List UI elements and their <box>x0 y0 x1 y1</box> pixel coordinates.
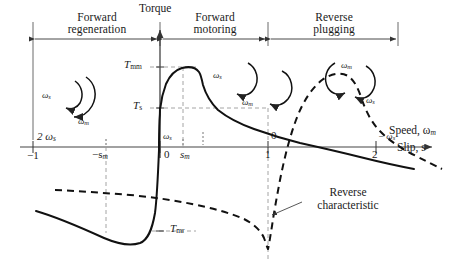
annotation-line1: Reverse <box>300 186 396 199</box>
region-title-line2: regeneration <box>49 23 145 35</box>
slip-tick-minus-sm: −sm <box>92 149 108 161</box>
omega-s-label-3: ωs <box>366 96 375 106</box>
omega-s-label-1-sub: s <box>48 93 51 100</box>
region-title-forward-regeneration: Forward regeneration <box>49 11 145 35</box>
label-tmr-sub: mr <box>176 226 185 235</box>
slip-tick-1: 1 <box>265 149 271 161</box>
region-title-line2: plugging <box>288 23 380 35</box>
slip-tick-sm: sm <box>180 149 190 161</box>
label-tmm: Tmm <box>124 59 142 71</box>
omega-s-label-2-sub: s <box>219 73 222 80</box>
torque-axis-label: Torque <box>139 2 171 14</box>
omega-s-label-1: ωs <box>42 91 51 101</box>
speed-tick-2ws-text: 2 ω <box>37 130 53 142</box>
annotation-reverse-characteristic: Reverse characteristic <box>300 186 396 212</box>
slip-axis-label: Slip, s <box>397 141 426 153</box>
omega-m-label-1: ωm <box>78 117 89 127</box>
label-ts: Ts <box>133 100 142 112</box>
omega-m-label-2: ωm <box>242 98 253 108</box>
region-title-reverse-plugging: Reverse plugging <box>288 11 380 35</box>
region-title-forward-motoring: Forward motoring <box>170 11 260 35</box>
omega-m-arc-2 <box>270 71 292 105</box>
omega-s-label-3-sub: s <box>372 98 375 105</box>
region-title-line1: Reverse <box>288 11 380 23</box>
omega-s-arc-3 <box>355 66 375 98</box>
speed-axis-label-sub: m <box>430 128 436 137</box>
label-tmm-sub: mm <box>130 62 142 71</box>
speed-tick-ws: ωs <box>163 132 172 142</box>
speed-tick-2ws: 2 ωs <box>37 131 56 143</box>
slip-tick-0: 0 <box>164 149 170 161</box>
speed-axis-label: Speed, ωm <box>389 124 436 137</box>
label-ts-sub: s <box>139 103 142 112</box>
slip-tick-minus-sm-text: −s <box>92 148 102 160</box>
omega-s-arc-2 <box>237 63 257 95</box>
slip-tick-minus-sm-sub: m <box>102 152 108 161</box>
region-title-line1: Forward <box>49 11 145 23</box>
region-title-line2: motoring <box>170 23 260 35</box>
slip-tick-sm-sub: m <box>184 152 190 161</box>
axis-ticks <box>33 132 376 153</box>
omega-s-arc-1 <box>66 81 82 109</box>
speed-tick-ws-sub: s <box>169 134 172 141</box>
annotation-line2: characteristic <box>300 199 396 212</box>
speed-tick-0: 0 <box>271 130 277 142</box>
slip-tick-2: 2 <box>372 149 378 161</box>
omega-m-label-2-sub: m <box>248 100 253 107</box>
region-title-line1: Forward <box>170 11 260 23</box>
speed-tick-2ws-sub: s <box>53 134 56 143</box>
speed-axis-label-text: Speed, ω <box>389 124 430 136</box>
rotation-arrows-forward-regeneration <box>66 77 95 117</box>
omega-m-label-3-sub: m <box>347 63 352 70</box>
omega-m-label-3: ωm <box>341 61 352 71</box>
omega-m-label-1-sub: m <box>84 119 89 126</box>
omega-s-label-2: ωs <box>213 71 222 81</box>
slip-tick-minus1: −1 <box>27 150 39 162</box>
label-tmr: Tmr <box>170 223 185 235</box>
figure-root: Forward regeneration Forward motoring Re… <box>0 0 458 272</box>
